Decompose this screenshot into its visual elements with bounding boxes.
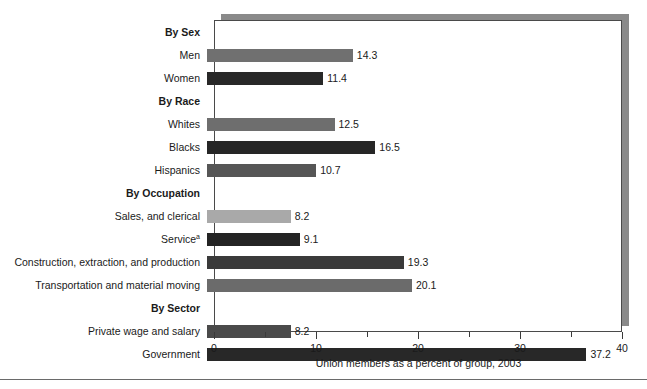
bar [207, 256, 404, 269]
bar-value-label: 19.3 [404, 256, 428, 269]
category-label: Private wage and salary [0, 326, 207, 337]
bar-row: Blacks16.5 [0, 136, 647, 159]
bar-track [207, 90, 647, 113]
category-label: Construction, extraction, and production [0, 257, 207, 268]
bar-track [207, 182, 647, 205]
category-label: Government [0, 349, 207, 360]
footnote-marker: a [196, 233, 200, 240]
x-tick-label: 0 [211, 342, 217, 354]
bar [207, 49, 353, 62]
x-axis: 010203040 [214, 332, 623, 333]
x-tick-major [418, 332, 419, 339]
bar-track: 9.1 [207, 228, 647, 251]
bar-track: 8.2 [207, 205, 647, 228]
bar-value-label: 12.5 [335, 118, 359, 131]
group-label: By Sex [0, 27, 207, 38]
group-label: By Occupation [0, 188, 207, 199]
bar-row: Women11.4 [0, 67, 647, 90]
bar-track: 19.3 [207, 251, 647, 274]
bar-track: 12.5 [207, 113, 647, 136]
x-tick-label: 10 [310, 342, 322, 354]
category-label: Men [0, 50, 207, 61]
x-tick-label: 40 [616, 342, 628, 354]
bar-row: Construction, extraction, and production… [0, 251, 647, 274]
bar-track: 10.7 [207, 159, 647, 182]
bar-row: Servicea9.1 [0, 228, 647, 251]
category-label: Women [0, 73, 207, 84]
bar-track: 20.1 [207, 274, 647, 297]
category-label: Hispanics [0, 165, 207, 176]
bar [207, 210, 291, 223]
bar-track: 11.4 [207, 67, 647, 90]
bar-value-label: 11.4 [323, 72, 347, 85]
bar [207, 279, 412, 292]
x-tick-minor [571, 332, 572, 337]
bar-row: Men14.3 [0, 44, 647, 67]
group-header-row: By Sector [0, 297, 647, 320]
bar-value-label: 8.2 [291, 210, 310, 223]
x-tick-label: 20 [412, 342, 424, 354]
bar-row: Sales, and clerical8.2 [0, 205, 647, 228]
x-tick-major [622, 332, 623, 339]
category-label: Blacks [0, 142, 207, 153]
x-tick-major [316, 332, 317, 339]
bar-rows: By SexMen14.3Women11.4By RaceWhites12.5B… [0, 20, 647, 332]
x-tick-minor [367, 332, 368, 337]
bar-row: Hispanics10.7 [0, 159, 647, 182]
bar-value-label: 10.7 [316, 164, 340, 177]
x-tick-minor [469, 332, 470, 337]
bar-track [207, 21, 647, 44]
x-tick-label: 30 [514, 342, 526, 354]
bar [207, 72, 323, 85]
bar-row: Transportation and material moving20.1 [0, 274, 647, 297]
group-label: By Race [0, 96, 207, 107]
group-label: By Sector [0, 303, 207, 314]
footer-divider [0, 379, 647, 380]
bar-track: 14.3 [207, 44, 647, 67]
x-tick-major [214, 332, 215, 339]
category-label: Sales, and clerical [0, 211, 207, 222]
x-tick-minor [265, 332, 266, 337]
x-tick-major [520, 332, 521, 339]
bar-value-label: 14.3 [353, 49, 377, 62]
bar-value-label: 20.1 [412, 279, 436, 292]
bar [207, 141, 375, 154]
bar-row: Whites12.5 [0, 113, 647, 136]
bar [207, 164, 316, 177]
bar-value-label: 9.1 [300, 233, 319, 246]
chart-figure: By SexMen14.3Women11.4By RaceWhites12.5B… [0, 0, 647, 389]
category-label: Transportation and material moving [0, 280, 207, 291]
bar-value-label: 16.5 [375, 141, 399, 154]
bar-track: 16.5 [207, 136, 647, 159]
category-label: Servicea [0, 234, 207, 245]
bar [207, 118, 335, 131]
bar-track [207, 297, 647, 320]
x-axis-title: Union members as a percent of group, 200… [214, 357, 623, 369]
bar [207, 233, 300, 246]
group-header-row: By Race [0, 90, 647, 113]
group-header-row: By Occupation [0, 182, 647, 205]
group-header-row: By Sex [0, 21, 647, 44]
category-label: Whites [0, 119, 207, 130]
